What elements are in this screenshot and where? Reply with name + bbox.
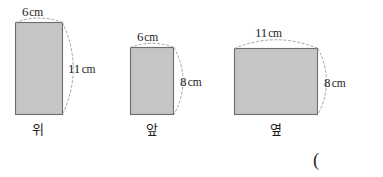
view-label-side-view: 옆: [270, 122, 282, 137]
trailing-parenthesis: (: [313, 149, 319, 171]
shape-side-view: 11cm 8cm 옆: [235, 25, 346, 137]
rectangle-side-view: [235, 49, 318, 115]
geometry-figure: 6cm 11cm 위 6cm 8cm 앞: [0, 0, 383, 177]
width-arc-side-view: [235, 40, 319, 49]
shape-front-view: 6cm 8cm 앞: [131, 29, 202, 137]
height-label-top-view: 11cm: [68, 61, 96, 76]
width-label-side-view: 11cm: [255, 25, 282, 40]
shape-top-view: 6cm 11cm 위: [16, 4, 96, 137]
figure-canvas: 6cm 11cm 위 6cm 8cm 앞: [0, 0, 383, 177]
view-label-top-view: 위: [32, 122, 44, 137]
rectangle-top-view: [16, 23, 63, 115]
height-label-side-view: 8cm: [324, 75, 346, 90]
width-label-front-view: 6cm: [137, 29, 158, 44]
height-label-front-view: 8cm: [180, 74, 202, 89]
rectangle-front-view: [131, 48, 174, 115]
width-label-top-view: 6cm: [22, 4, 43, 19]
view-label-front-view: 앞: [146, 122, 158, 137]
